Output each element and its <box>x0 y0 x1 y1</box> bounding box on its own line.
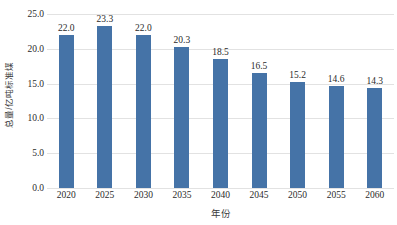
bar-slot: 14.3 <box>355 14 394 188</box>
bar-slot: 20.3 <box>163 14 202 188</box>
bars: 22.023.322.020.318.516.515.214.614.3 <box>47 14 394 188</box>
bar-value-label: 22.0 <box>58 23 75 33</box>
bar-slot: 22.0 <box>47 14 86 188</box>
bar: 15.2 <box>290 82 305 188</box>
plot-area: 22.023.322.020.318.516.515.214.614.3 <box>47 14 394 188</box>
x-tick-label: 2030 <box>134 190 153 200</box>
bar-value-label: 14.6 <box>328 74 345 84</box>
bar: 18.5 <box>213 59 228 188</box>
bar: 23.3 <box>97 26 112 188</box>
y-axis-title: 总量/亿吨标准煤 <box>0 0 16 190</box>
x-tick-label: 2050 <box>288 190 307 200</box>
bar-slot: 14.6 <box>317 14 356 188</box>
bar-value-label: 18.5 <box>212 47 229 57</box>
x-axis-title: 年份 <box>47 206 394 220</box>
bar-slot: 23.3 <box>86 14 125 188</box>
bar-value-label: 15.2 <box>289 70 306 80</box>
bar-chart: 总量/亿吨标准煤 0.05.010.015.020.025.0 22.023.3… <box>0 0 397 225</box>
x-tick-label: 2055 <box>327 190 346 200</box>
bar-slot: 16.5 <box>240 14 279 188</box>
bar: 14.6 <box>329 86 344 188</box>
bar-value-label: 14.3 <box>366 76 383 86</box>
x-axis-tick-labels: 202020252030203520402045205020552060 <box>47 190 394 204</box>
bar-slot: 15.2 <box>278 14 317 188</box>
bar-value-label: 20.3 <box>174 35 191 45</box>
bar-value-label: 22.0 <box>135 23 152 33</box>
bar: 14.3 <box>367 88 382 188</box>
gridline <box>47 188 394 189</box>
bar-slot: 18.5 <box>201 14 240 188</box>
x-tick-label: 2025 <box>95 190 114 200</box>
bar-value-label: 16.5 <box>251 61 268 71</box>
bar: 22.0 <box>59 35 74 188</box>
bar-slot: 22.0 <box>124 14 163 188</box>
y-axis-title-text: 总量/亿吨标准煤 <box>2 62 14 127</box>
bar: 22.0 <box>136 35 151 188</box>
bar-value-label: 23.3 <box>97 14 114 24</box>
x-tick-label: 2060 <box>365 190 384 200</box>
x-tick-label: 2020 <box>57 190 76 200</box>
x-tick-label: 2035 <box>172 190 191 200</box>
x-tick-label: 2040 <box>211 190 230 200</box>
x-tick-label: 2045 <box>250 190 269 200</box>
bar: 16.5 <box>252 73 267 188</box>
bar: 20.3 <box>174 47 189 188</box>
